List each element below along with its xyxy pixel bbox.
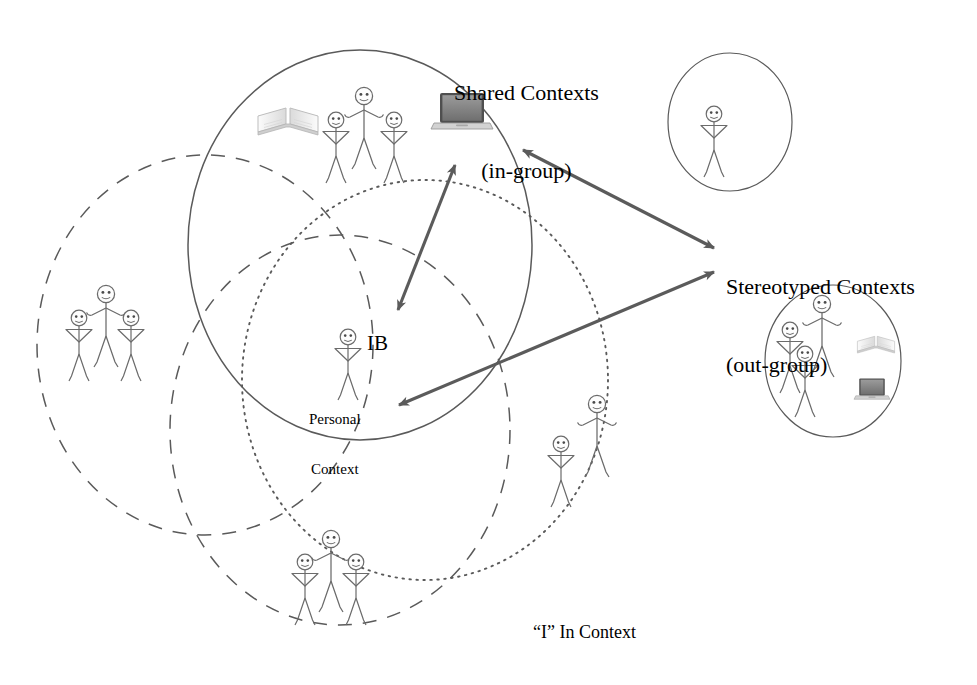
shared-contexts-label: Shared Contexts (in-group) bbox=[454, 28, 599, 210]
diagram-canvas: Shared Contexts (in-group) Stereotyped C… bbox=[0, 0, 977, 685]
stereotype-single-circle bbox=[668, 53, 792, 191]
personal-context-label: Personal Context bbox=[309, 377, 361, 495]
left-context-people bbox=[66, 285, 144, 381]
self-label: IB bbox=[367, 331, 388, 356]
personal-context-label-line1: Personal bbox=[309, 411, 361, 428]
stereotyped-contexts-label-line1: Stereotyped Contexts bbox=[726, 274, 915, 300]
diagram-caption: “I” In Context bbox=[533, 622, 636, 643]
stereotyped-contexts-label: Stereotyped Contexts (out-group) bbox=[726, 222, 915, 404]
shared-contexts-label-line1: Shared Contexts bbox=[454, 80, 599, 106]
arrow-self-to-stereotyped bbox=[399, 272, 714, 405]
personal-context-people bbox=[548, 395, 617, 507]
book-icon-shared bbox=[258, 108, 318, 135]
shared-contexts-label-line2: (in-group) bbox=[454, 158, 599, 184]
bottom-context-people bbox=[292, 530, 369, 625]
stereotyped-contexts-label-line2: (out-group) bbox=[726, 352, 915, 378]
personal-context-label-line2: Context bbox=[309, 461, 361, 478]
arrow-self-to-shared bbox=[398, 165, 455, 310]
shared-contexts-people bbox=[323, 87, 407, 183]
stereotype-single-person bbox=[701, 106, 727, 177]
